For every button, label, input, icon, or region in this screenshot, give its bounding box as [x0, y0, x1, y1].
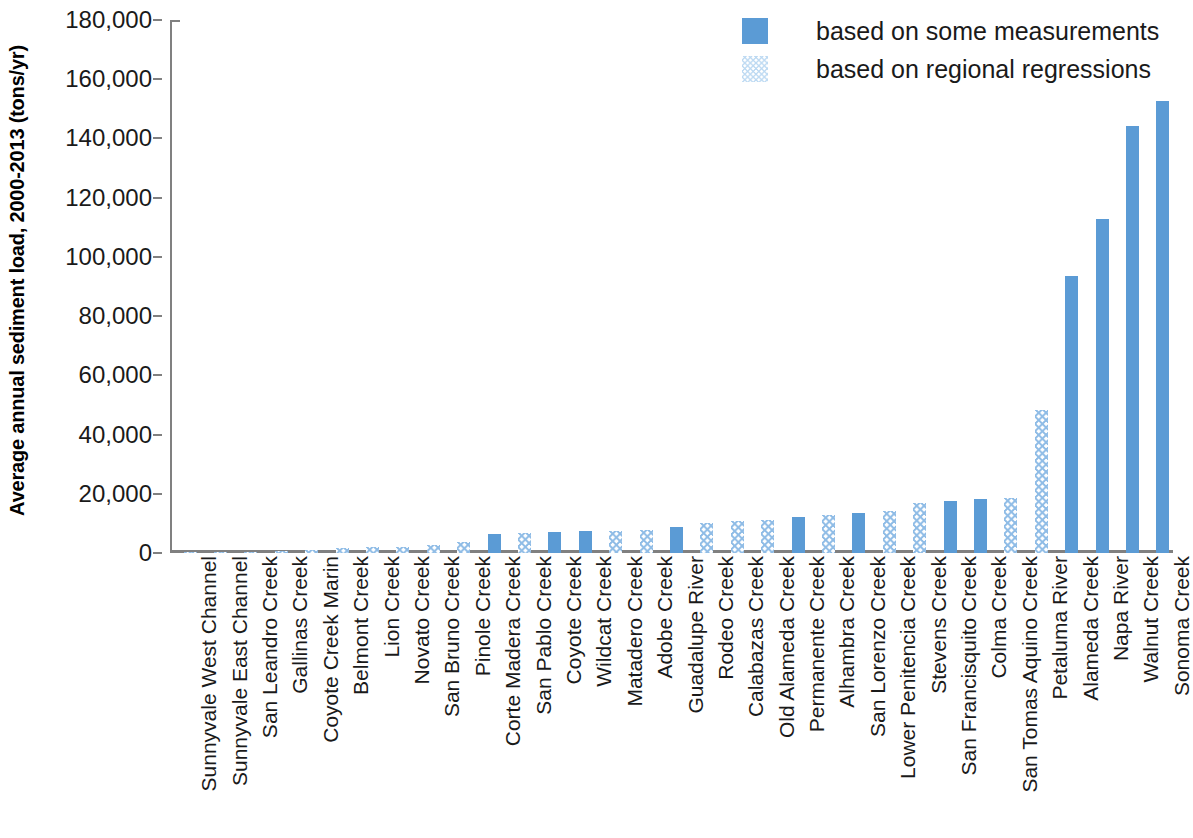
x-tick-label: San Lorenzo Creek — [867, 556, 888, 737]
bar[interactable] — [700, 523, 713, 553]
y-tick-label: 180,000 — [65, 8, 152, 32]
x-tick-label: Novato Creek — [411, 556, 432, 684]
bar[interactable] — [640, 530, 653, 553]
x-tick-label: Sunnyvale East Channel — [229, 556, 250, 786]
legend-item[interactable]: based on regional regressions — [742, 52, 1151, 86]
x-tick-label: San Tomas Aquino Creek — [1019, 556, 1040, 793]
x-tick-label: Belmont Creek — [350, 556, 371, 695]
bar[interactable] — [609, 531, 622, 554]
x-tick-label: Permanente Creek — [806, 556, 827, 732]
bar[interactable] — [488, 534, 501, 553]
x-tick-label: Corte Madera Creek — [502, 556, 523, 746]
y-tick-mark — [153, 256, 162, 258]
bar[interactable] — [1126, 126, 1139, 553]
x-tick-label: San Francisquito Creek — [958, 556, 979, 775]
bar[interactable] — [974, 499, 987, 553]
y-tick-mark — [153, 552, 162, 554]
x-tick-label: Sonoma Creek — [1171, 556, 1192, 696]
bar[interactable] — [670, 527, 683, 553]
x-tick-label: Lower Penitencia Creek — [897, 556, 918, 779]
bar[interactable] — [427, 545, 440, 553]
y-tick-label: 40,000 — [79, 423, 152, 447]
y-tick-mark — [153, 434, 162, 436]
y-axis-title: Average annual sediment load, 2000-2013 … — [6, 45, 29, 516]
legend-swatch-solid — [742, 18, 768, 44]
bar[interactable] — [244, 552, 257, 554]
bar[interactable] — [1065, 276, 1078, 553]
y-tick-label: 140,000 — [65, 126, 152, 150]
x-tick-label: Wildcat Creek — [593, 556, 614, 687]
x-tick-label: Rodeo Creek — [715, 556, 736, 680]
x-tick-label: Walnut Creek — [1140, 556, 1161, 682]
bar[interactable] — [944, 501, 957, 553]
y-tick-label: 160,000 — [65, 67, 152, 91]
x-tick-label: Adobe Creek — [654, 556, 675, 679]
bar[interactable] — [1035, 410, 1048, 553]
bar-series-container — [170, 20, 1173, 553]
legend-label: based on regional regressions — [816, 57, 1151, 82]
chart-legend: based on some measurementsbased on regio… — [742, 14, 1162, 88]
x-axis-tick-labels: Sunnyvale West ChannelSunnyvale East Cha… — [170, 556, 1173, 838]
x-tick-label: Sunnyvale West Channel — [198, 556, 219, 791]
x-tick-label: Stevens Creek — [928, 556, 949, 694]
x-tick-label: Petaluma River — [1049, 556, 1070, 700]
y-tick-mark — [153, 19, 162, 21]
bar[interactable] — [1156, 101, 1169, 553]
x-tick-label: Alameda Creek — [1080, 556, 1101, 701]
bar[interactable] — [336, 548, 349, 553]
bar[interactable] — [1004, 498, 1017, 553]
x-tick-label: Coyote Creek — [563, 556, 584, 684]
bar[interactable] — [396, 547, 409, 553]
x-tick-label: Alhambra Creek — [836, 556, 857, 708]
bar[interactable] — [883, 511, 896, 553]
y-tick-mark — [153, 493, 162, 495]
x-tick-label: Pinole Creek — [472, 556, 493, 676]
y-tick-mark — [153, 374, 162, 376]
bar[interactable] — [792, 517, 805, 553]
y-tick-mark — [153, 137, 162, 139]
y-tick-label: 100,000 — [65, 245, 152, 269]
x-tick-label: Colma Creek — [988, 556, 1009, 679]
bar[interactable] — [457, 542, 470, 553]
y-tick-mark — [153, 78, 162, 80]
y-tick-label: 20,000 — [79, 482, 152, 506]
bar[interactable] — [366, 547, 379, 553]
x-tick-label: San Bruno Creek — [441, 556, 462, 717]
legend-swatch-hatch — [742, 56, 768, 82]
plot-area — [170, 20, 1173, 553]
x-tick-label: San Pablo Creek — [533, 556, 554, 715]
bar[interactable] — [214, 552, 227, 554]
bar[interactable] — [822, 515, 835, 553]
x-tick-label: Gallinas Creek — [289, 556, 310, 694]
bar[interactable] — [852, 513, 865, 553]
bar[interactable] — [579, 531, 592, 553]
y-axis-title-container: Average annual sediment load, 2000-2013 … — [0, 0, 34, 560]
y-axis-tick-labels: 020,00040,00060,00080,000100,000120,0001… — [34, 0, 162, 570]
bar[interactable] — [184, 552, 197, 554]
bar[interactable] — [518, 533, 531, 553]
y-tick-label: 0 — [139, 541, 152, 565]
y-tick-label: 120,000 — [65, 186, 152, 210]
bar[interactable] — [1096, 219, 1109, 553]
bar[interactable] — [275, 551, 288, 553]
x-tick-label: Guadalupe River — [685, 556, 706, 714]
x-tick-label: San Leandro Creek — [259, 556, 280, 738]
x-tick-label: Lion Creek — [381, 556, 402, 658]
x-tick-label: Napa River — [1110, 556, 1131, 661]
x-tick-label: Old Alameda Creek — [776, 556, 797, 738]
x-tick-label: Coyote Creek Marin — [320, 556, 341, 743]
legend-item[interactable]: based on some measurements — [742, 14, 1159, 48]
bar[interactable] — [913, 503, 926, 553]
x-tick-label: Calabazas Creek — [745, 556, 766, 717]
y-tick-label: 80,000 — [79, 304, 152, 328]
x-tick-label: Matadero Creek — [624, 556, 645, 707]
bar[interactable] — [548, 532, 561, 553]
y-tick-mark — [153, 315, 162, 317]
y-tick-mark — [153, 197, 162, 199]
legend-label: based on some measurements — [816, 19, 1159, 44]
y-tick-label: 60,000 — [79, 363, 152, 387]
bar[interactable] — [731, 521, 744, 553]
bar[interactable] — [761, 520, 774, 553]
bar[interactable] — [305, 550, 318, 553]
